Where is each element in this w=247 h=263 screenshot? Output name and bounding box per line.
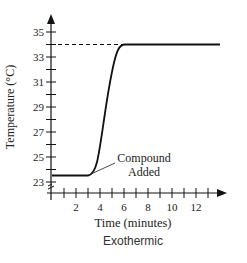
x-tick-label: 10 bbox=[167, 201, 179, 213]
y-tick-label: 27 bbox=[33, 126, 45, 138]
y-tick-label: 31 bbox=[33, 76, 44, 88]
x-tick-label: 8 bbox=[145, 201, 151, 213]
chart-caption: Exothermic bbox=[103, 234, 163, 248]
x-tick-label: 12 bbox=[191, 201, 202, 213]
y-axis-label: Temperature (°C) bbox=[3, 65, 17, 149]
annotation-line1: Compound bbox=[117, 151, 170, 165]
y-tick-labels: 35 33 31 29 27 25 23 bbox=[33, 26, 45, 188]
x-tick-label: 2 bbox=[73, 201, 79, 213]
y-axis-arrow-icon bbox=[47, 14, 55, 24]
x-axis-arrow-icon bbox=[217, 189, 227, 197]
chart-canvas: 35 33 31 29 27 25 23 2 4 6 8 10 12 Compo… bbox=[0, 0, 247, 263]
y-tick-label: 25 bbox=[33, 151, 45, 163]
y-tick-label: 35 bbox=[33, 26, 45, 38]
annotation-line2: Added bbox=[128, 165, 160, 179]
y-tick-label: 29 bbox=[33, 101, 45, 113]
y-tick-label: 23 bbox=[33, 176, 45, 188]
x-tick-labels: 2 4 6 8 10 12 bbox=[73, 201, 201, 213]
x-axis-label: Time (minutes) bbox=[95, 216, 172, 230]
y-tick-label: 33 bbox=[33, 51, 45, 63]
x-tick-label: 6 bbox=[121, 201, 127, 213]
x-tick-label: 4 bbox=[97, 201, 103, 213]
